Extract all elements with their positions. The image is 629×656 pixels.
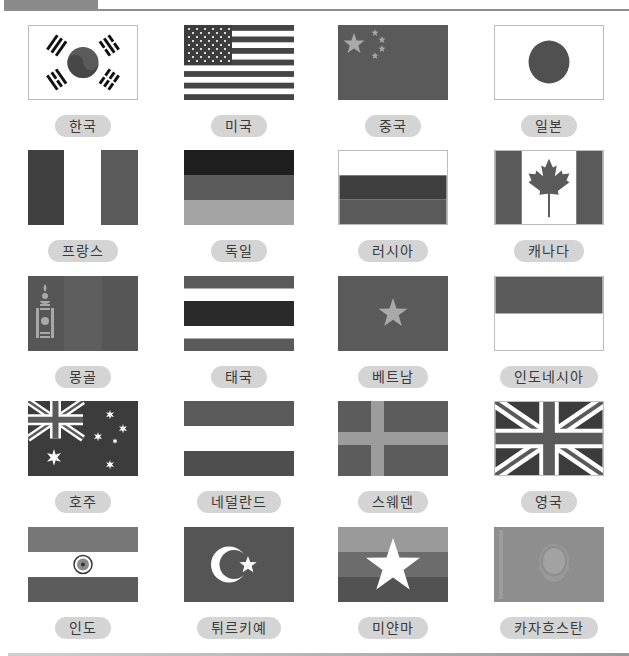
flag-card-korea: 한국	[10, 25, 156, 150]
flag-australia-icon	[28, 401, 138, 476]
flag-card-canada: 캐나다	[476, 150, 622, 275]
flag-france-icon	[28, 150, 138, 225]
flag-netherlands-icon	[184, 401, 294, 476]
flag-card-myanmar: 미얀마	[320, 527, 466, 652]
flag-germany-icon	[184, 150, 294, 225]
flag-uk-icon	[494, 401, 604, 476]
flag-card-vietnam: 베트남	[320, 276, 466, 401]
flag-turkiye-icon	[184, 527, 294, 602]
flag-label-mongolia: 몽골	[55, 366, 111, 388]
flag-mongolia-icon	[28, 276, 138, 351]
flag-card-australia: 호주	[10, 401, 156, 526]
flag-card-kazakhstan: 카자흐스탄	[476, 527, 622, 652]
flag-sweden-icon	[338, 401, 448, 476]
flag-card-sweden: 스웨덴	[320, 401, 466, 526]
flag-vietnam-icon	[338, 276, 448, 351]
flag-card-russia: 러시아	[320, 150, 466, 275]
flag-card-china: 중국	[320, 25, 466, 150]
flag-label-china: 중국	[365, 115, 421, 137]
flag-label-france: 프랑스	[48, 240, 118, 262]
flag-label-germany: 독일	[211, 240, 267, 262]
flag-card-uk: 영국	[476, 401, 622, 526]
flag-label-indonesia: 인도네시아	[500, 366, 598, 388]
flag-label-canada: 캐나다	[514, 240, 584, 262]
flag-japan-icon	[494, 25, 604, 100]
flag-card-germany: 독일	[166, 150, 312, 275]
flag-label-kazakhstan: 카자흐스탄	[500, 617, 598, 639]
flag-label-india: 인도	[55, 617, 111, 639]
flag-russia-icon	[338, 150, 448, 225]
flag-china-icon	[338, 25, 448, 100]
flag-label-korea: 한국	[55, 115, 111, 137]
flag-thailand-icon	[184, 276, 294, 351]
flag-card-indonesia: 인도네시아	[476, 276, 622, 401]
flag-label-myanmar: 미얀마	[358, 617, 428, 639]
flag-label-vietnam: 베트남	[358, 366, 428, 388]
flag-card-india: 인도	[10, 527, 156, 652]
flag-label-netherlands: 네덜란드	[197, 491, 281, 513]
flag-canada-icon	[494, 150, 604, 225]
flag-myanmar-icon	[338, 527, 448, 602]
flag-card-thailand: 태국	[166, 276, 312, 401]
flag-kazakhstan-icon	[494, 527, 604, 602]
flag-label-thailand: 태국	[211, 366, 267, 388]
flag-korea-icon	[28, 25, 138, 100]
flag-label-japan: 일본	[521, 115, 577, 137]
flag-label-uk: 영국	[521, 491, 577, 513]
flag-card-usa: 미국	[166, 25, 312, 150]
flag-card-japan: 일본	[476, 25, 622, 150]
flag-label-russia: 러시아	[358, 240, 428, 262]
flag-card-france: 프랑스	[10, 150, 156, 275]
flag-card-mongolia: 몽골	[10, 276, 156, 401]
flag-label-turkiye: 튀르키예	[197, 617, 281, 639]
flag-label-sweden: 스웨덴	[358, 491, 428, 513]
header-divider	[4, 9, 629, 11]
flag-card-turkiye: 튀르키예	[166, 527, 312, 652]
flag-label-australia: 호주	[55, 491, 111, 513]
flag-card-netherlands: 네덜란드	[166, 401, 312, 526]
flag-indonesia-icon	[494, 276, 604, 351]
flag-label-usa: 미국	[211, 115, 267, 137]
flag-usa-icon	[184, 25, 294, 100]
flag-india-icon	[28, 527, 138, 602]
